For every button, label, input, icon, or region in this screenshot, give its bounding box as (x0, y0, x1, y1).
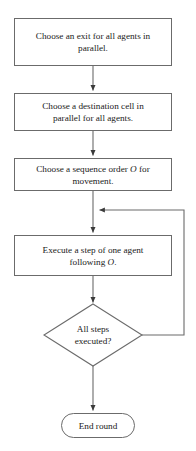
flowchart-diagram: Choose an exit for all agents in paralle… (0, 0, 196, 451)
terminal-node-end-round-label: End round (62, 420, 134, 432)
terminal-node-end-round: End round (61, 413, 135, 438)
process-node-choose-destination-label: Choose a destination cell in parallel fo… (19, 100, 167, 124)
process-node-execute-step-label: Execute a step of one agent following O. (19, 244, 167, 268)
order-variable-o: O (130, 164, 137, 174)
process-node-choose-exit-label: Choose an exit for all agents in paralle… (19, 30, 167, 54)
process-node-choose-order-label: Choose a sequence order O for movement. (19, 163, 167, 187)
process-node-choose-exit: Choose an exit for all agents in paralle… (14, 18, 172, 66)
process-node-execute-step: Execute a step of one agent following O. (14, 235, 172, 276)
process-node-choose-destination: Choose a destination cell in parallel fo… (14, 93, 172, 131)
decision-node-label: All steps executed? (44, 304, 142, 366)
process-node-choose-order: Choose a sequence order O for movement. (14, 158, 172, 191)
edge-layer (0, 0, 196, 451)
